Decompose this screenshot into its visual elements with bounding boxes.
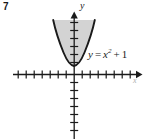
equation-exponent: 2 xyxy=(108,47,112,55)
equation-plus: + xyxy=(114,48,120,60)
equation-label: y=x2+1 xyxy=(88,48,127,61)
y-axis-label: y xyxy=(80,0,84,11)
graph-svg xyxy=(0,0,143,139)
y-axis-arrowhead xyxy=(71,12,78,19)
figure-container: 7 xyxy=(0,0,143,139)
equation-lhs: y xyxy=(88,48,93,60)
equation-equals: = xyxy=(95,48,101,60)
x-axis-label: x xyxy=(133,76,137,85)
equation-constant: 1 xyxy=(122,48,128,60)
